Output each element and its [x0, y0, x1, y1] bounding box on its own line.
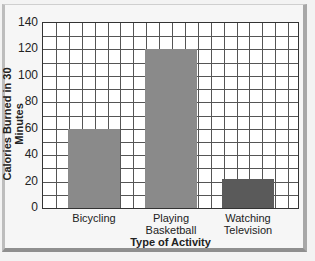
y-tick-label: 0	[8, 200, 38, 214]
x-axis-label: Type of Activity	[42, 236, 299, 248]
bar-watching-television	[222, 179, 274, 208]
x-tick-label: Bicycling	[54, 212, 134, 224]
bar-bicycling	[68, 129, 120, 208]
x-tick-label: WatchingTelevision	[208, 212, 288, 236]
y-tick-label: 140	[8, 15, 38, 29]
grid-line-horizontal	[43, 36, 298, 37]
x-tick-label: PlayingBasketball	[131, 212, 211, 236]
plot-area	[42, 22, 299, 209]
y-axis-label: Calories Burned in 30 Minutes	[1, 49, 25, 199]
bar-playing-basketball	[145, 49, 197, 208]
